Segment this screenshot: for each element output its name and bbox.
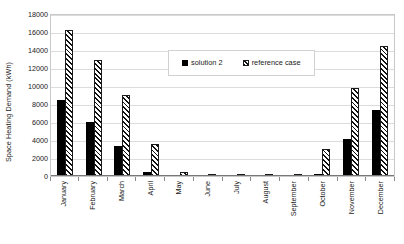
x-label-cell: August (251, 181, 280, 243)
bar-reference-case (380, 46, 388, 176)
y-tick-label: 0 (20, 173, 48, 180)
bars-layer (51, 15, 394, 176)
legend-swatch-solid-icon (182, 60, 188, 66)
x-label-cell: December (366, 181, 395, 243)
legend-label-reference-case: reference case (252, 59, 301, 67)
x-tick-label: March (117, 181, 127, 241)
x-axis-baseline (51, 175, 394, 176)
bar-group (51, 15, 80, 176)
plot-area (50, 14, 395, 177)
x-tick-label: May (174, 181, 184, 241)
x-tick-label: November (347, 181, 357, 241)
x-tick-label: August (261, 181, 271, 241)
x-tick-label: February (88, 181, 98, 241)
x-label-cell: March (108, 181, 137, 243)
x-axis-tick-labels: JanuaryFebruaryMarchAprilMayJuneJulyAugu… (50, 181, 395, 243)
y-tick-label: 10000 (20, 83, 48, 90)
x-label-cell: November (338, 181, 367, 243)
bar-group (137, 15, 166, 176)
bar-reference-case (122, 95, 130, 176)
bar-group (280, 15, 309, 176)
y-tick-label: 8000 (20, 101, 48, 108)
bar-group (337, 15, 366, 176)
y-tick-label: 2000 (20, 155, 48, 162)
y-tick-label: 4000 (20, 137, 48, 144)
bar-group (222, 15, 251, 176)
x-tick-label: January (59, 181, 69, 241)
x-tick-label: April (146, 181, 156, 241)
bar-group (308, 15, 337, 176)
x-label-cell: January (50, 181, 79, 243)
bar-group (108, 15, 137, 176)
legend-entry-solution-2: solution 2 (182, 59, 223, 67)
legend-swatch-hatch-icon (243, 60, 249, 66)
x-label-cell: February (79, 181, 108, 243)
chart-legend: solution 2 reference case (168, 50, 315, 76)
x-tick-label: September (289, 181, 299, 241)
legend-entry-reference-case: reference case (243, 59, 301, 67)
y-tick-label: 6000 (20, 119, 48, 126)
bar-group (251, 15, 280, 176)
x-label-cell: April (136, 181, 165, 243)
bar-solution-2 (343, 139, 351, 176)
y-axis-title: Space Heating Demand (kWh) (2, 22, 16, 202)
bar-reference-case (351, 88, 359, 176)
bar-group (80, 15, 109, 176)
bar-solution-2 (372, 110, 380, 176)
y-tick-label: 14000 (20, 47, 48, 54)
bar-reference-case (94, 60, 102, 176)
y-tick-label: 18000 (20, 11, 48, 18)
x-tick-label: June (203, 181, 213, 241)
y-axis-tick-labels: 1800016000140001200010000800060004000200… (20, 14, 48, 177)
bar-reference-case (151, 144, 159, 176)
bar-solution-2 (86, 122, 94, 176)
x-tick-label: December (376, 181, 386, 241)
x-label-cell: May (165, 181, 194, 243)
x-tick-label: October (318, 181, 328, 241)
bar-group (165, 15, 194, 176)
x-label-cell: September (280, 181, 309, 243)
bar-solution-2 (57, 100, 65, 176)
bar-group (365, 15, 394, 176)
x-label-cell: October (309, 181, 338, 243)
legend-label-solution-2: solution 2 (191, 59, 223, 67)
y-tick-label: 12000 (20, 65, 48, 72)
bar-chart: Space Heating Demand (kWh) 1800016000140… (0, 0, 404, 244)
bar-group (194, 15, 223, 176)
y-tick-label: 16000 (20, 29, 48, 36)
bar-solution-2 (114, 146, 122, 176)
x-tick-label: July (232, 181, 242, 241)
bar-reference-case (65, 30, 73, 176)
bar-reference-case (322, 149, 330, 176)
x-label-cell: June (194, 181, 223, 243)
x-label-cell: July (223, 181, 252, 243)
